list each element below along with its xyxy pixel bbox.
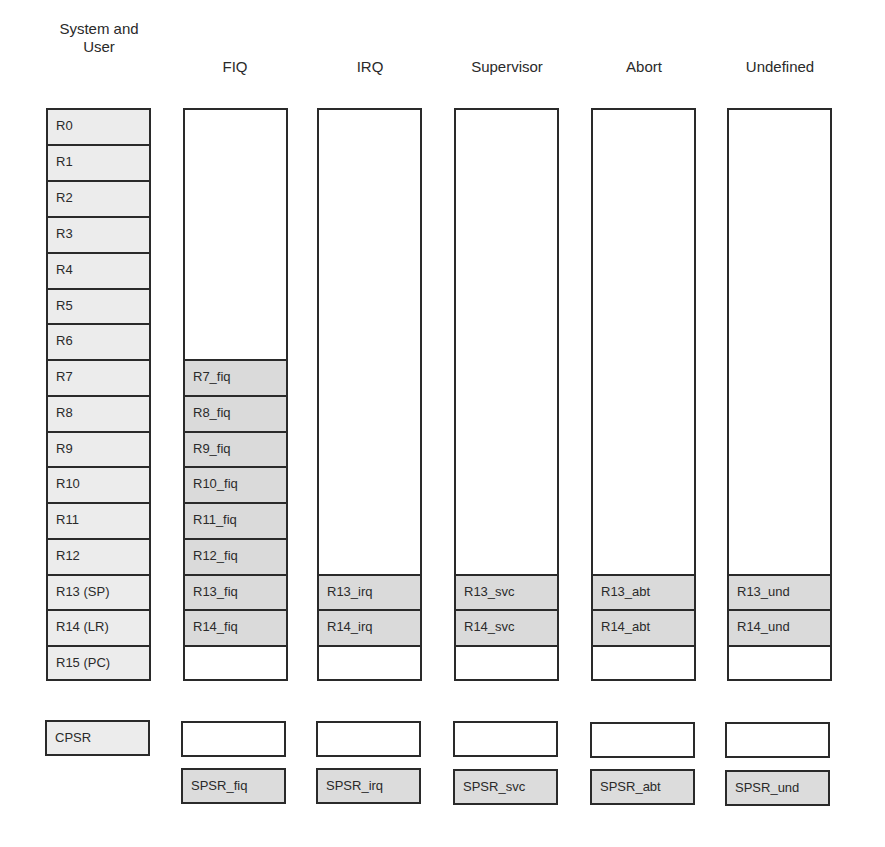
register-r14-und: R14_und: [729, 609, 830, 645]
register-r10: R10: [48, 466, 149, 502]
header-fiq: FIQ: [165, 58, 305, 76]
register-r13-und: R13_und: [729, 574, 830, 610]
register-r14-irq: R14_irq: [319, 609, 420, 645]
register-r12: R12: [48, 538, 149, 574]
register-r12-fiq: R12_fiq: [185, 538, 286, 574]
fiq-register-column: R7_fiq R8_fiq R9_fiq R10_fiq R11_fiq R12…: [183, 108, 288, 681]
register-r15-irq-shared: [319, 645, 420, 679]
register-r13-sp: R13 (SP): [48, 574, 149, 610]
header-system-user: System and User: [29, 20, 169, 56]
cpsr-und-shared: [725, 722, 830, 758]
register-r1: R1: [48, 144, 149, 180]
cpsr-fiq-shared: [181, 721, 286, 757]
spsr-svc-register: SPSR_svc: [453, 769, 558, 805]
register-r7: R7: [48, 359, 149, 395]
register-r13-abt: R13_abt: [593, 574, 694, 610]
register-r15-abt-shared: [593, 645, 694, 679]
register-r0: R0: [48, 110, 149, 146]
register-r13-fiq: R13_fiq: [185, 574, 286, 610]
header-system-user-line1: System and: [29, 20, 169, 38]
cpsr-svc-shared: [453, 721, 558, 757]
register-r15-pc: R15 (PC): [48, 645, 149, 679]
register-r15-fiq-shared: [185, 645, 286, 679]
supervisor-register-column: R13_svc R14_svc: [454, 108, 559, 681]
register-r9: R9: [48, 431, 149, 467]
register-r7-fiq: R7_fiq: [185, 359, 286, 395]
system-user-register-column: R0 R1 R2 R3 R4 R5 R6 R7 R8 R9 R10 R11 R1…: [46, 108, 151, 681]
register-r11-fiq: R11_fiq: [185, 502, 286, 538]
register-r2: R2: [48, 180, 149, 216]
cpsr-irq-shared: [316, 721, 421, 757]
register-r11: R11: [48, 502, 149, 538]
register-r13-svc: R13_svc: [456, 574, 557, 610]
spsr-irq-register: SPSR_irq: [316, 768, 421, 804]
register-r14-abt: R14_abt: [593, 609, 694, 645]
register-r3: R3: [48, 216, 149, 252]
register-r14-svc: R14_svc: [456, 609, 557, 645]
register-r8-fiq: R8_fiq: [185, 395, 286, 431]
register-r5: R5: [48, 288, 149, 324]
undefined-register-column: R13_und R14_und: [727, 108, 832, 681]
spsr-fiq-register: SPSR_fiq: [181, 768, 286, 804]
header-system-user-line2: User: [29, 38, 169, 56]
spsr-und-register: SPSR_und: [725, 770, 830, 806]
header-irq: IRQ: [300, 58, 440, 76]
abort-register-column: R13_abt R14_abt: [591, 108, 696, 681]
register-r14-fiq: R14_fiq: [185, 609, 286, 645]
spsr-abt-register: SPSR_abt: [590, 769, 695, 805]
header-undefined: Undefined: [710, 58, 850, 76]
header-supervisor: Supervisor: [437, 58, 577, 76]
register-r4: R4: [48, 252, 149, 288]
register-r15-svc-shared: [456, 645, 557, 679]
register-r8: R8: [48, 395, 149, 431]
header-abort: Abort: [574, 58, 714, 76]
irq-register-column: R13_irq R14_irq: [317, 108, 422, 681]
register-r6: R6: [48, 323, 149, 359]
register-r9-fiq: R9_fiq: [185, 431, 286, 467]
register-r10-fiq: R10_fiq: [185, 466, 286, 502]
register-r14-lr: R14 (LR): [48, 609, 149, 645]
register-r13-irq: R13_irq: [319, 574, 420, 610]
cpsr-register: CPSR: [45, 720, 150, 756]
cpsr-abt-shared: [590, 722, 695, 758]
register-r15-und-shared: [729, 645, 830, 679]
